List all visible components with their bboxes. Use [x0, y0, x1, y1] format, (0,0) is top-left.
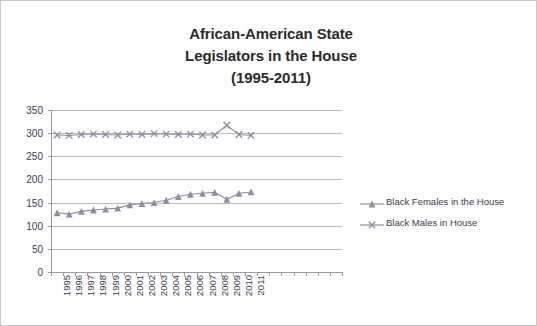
chart-title-line-3: (1995-2011)	[61, 67, 481, 89]
x-tick-label-2000: 2000	[122, 275, 133, 315]
x-tick-label-2009: 2009	[231, 275, 242, 315]
x-tick-label-2005: 2005	[182, 275, 193, 315]
x-marker-icon	[359, 217, 385, 229]
y-tick-label-100: 100	[9, 220, 43, 231]
y-tick-label-150: 150	[9, 197, 43, 208]
triangle-marker-icon	[359, 196, 385, 208]
legend-label: Black Males in House	[386, 217, 477, 228]
x-tick-label-2006: 2006	[194, 275, 205, 315]
data-point-marker-x	[224, 122, 230, 128]
legend-item-2[interactable]: Black Males in House	[359, 212, 524, 233]
data-point-marker-triangle	[223, 196, 230, 203]
x-tick-label-2011: 2011	[255, 275, 266, 315]
chart-frame: African-American State Legislators in th…	[0, 0, 537, 326]
x-tick-label-2007: 2007	[207, 275, 218, 315]
y-tick-label-300: 300	[9, 128, 43, 139]
series-2	[54, 122, 254, 139]
x-tick-label-1997: 1997	[85, 275, 96, 315]
chart-legend: Black Females in the HouseBlack Males in…	[359, 191, 524, 233]
plot-area	[51, 110, 342, 272]
series-layer	[51, 110, 342, 272]
x-tick-label-2002: 2002	[146, 275, 157, 315]
x-tick-label-1998: 1998	[97, 275, 108, 315]
x-axis-labels: 1995199619971998199920002001200220032004…	[1, 275, 537, 320]
legend-item-1[interactable]: Black Females in the House	[359, 191, 524, 212]
x-tick-label-1999: 1999	[110, 275, 121, 315]
y-tick-label-200: 200	[9, 174, 43, 185]
x-tick-label-1995: 1995	[61, 275, 72, 315]
x-tick-label-1996: 1996	[73, 275, 84, 315]
y-tick-label-250: 250	[9, 151, 43, 162]
x-tick-label-2008: 2008	[219, 275, 230, 315]
x-tick-label-2001: 2001	[134, 275, 145, 315]
chart-title: African-American State Legislators in th…	[61, 23, 481, 88]
series-1	[54, 189, 255, 218]
x-tick-label-2004: 2004	[170, 275, 181, 315]
y-tick-label-50: 50	[9, 243, 43, 254]
legend-label: Black Females in the House	[386, 196, 504, 207]
y-tick-label-350: 350	[9, 105, 43, 116]
chart-title-line-1: African-American State	[61, 23, 481, 45]
x-tick-label-2010: 2010	[243, 275, 254, 315]
chart-title-line-2: Legislators in the House	[61, 45, 481, 67]
x-tick-label-2003: 2003	[158, 275, 169, 315]
